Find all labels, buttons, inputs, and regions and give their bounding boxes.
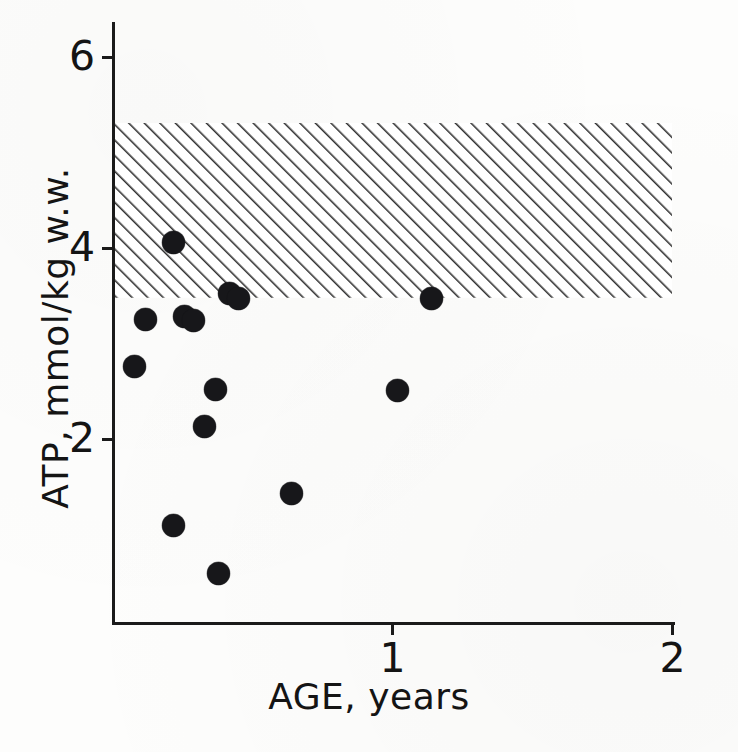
normal-reference-range-band bbox=[112, 123, 672, 298]
y-axis-line bbox=[112, 22, 115, 625]
data-point bbox=[162, 231, 185, 254]
data-point bbox=[207, 562, 230, 585]
data-point bbox=[227, 287, 250, 310]
scatter-plot-figure: 24612 AGE, years ATP, mmol/kg w.w. bbox=[0, 0, 738, 752]
data-point bbox=[182, 309, 205, 332]
data-point bbox=[204, 378, 227, 401]
y-axis-tick bbox=[102, 247, 115, 250]
data-point bbox=[193, 415, 216, 438]
y-axis-title-container: ATP, mmol/kg w.w. bbox=[27, 28, 83, 648]
hatch-pattern-svg bbox=[112, 123, 672, 298]
data-point bbox=[420, 287, 443, 310]
data-point bbox=[134, 308, 157, 331]
y-axis-title: ATP, mmol/kg w.w. bbox=[35, 167, 76, 509]
data-point bbox=[162, 514, 185, 537]
x-axis-line bbox=[112, 622, 675, 625]
x-axis-tick-label: 1 bbox=[368, 638, 416, 679]
y-axis-tick bbox=[102, 56, 115, 59]
data-point bbox=[386, 379, 409, 402]
x-axis-title: AGE, years bbox=[0, 676, 738, 717]
y-axis-tick bbox=[102, 438, 115, 441]
plot-area: 24612 AGE, years ATP, mmol/kg w.w. bbox=[0, 0, 738, 752]
x-axis-tick-label: 2 bbox=[648, 638, 696, 679]
data-point bbox=[123, 355, 146, 378]
data-point bbox=[280, 482, 303, 505]
